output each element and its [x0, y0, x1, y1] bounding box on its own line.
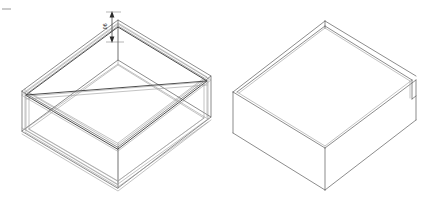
floor-outer-diamond: [22, 60, 211, 188]
solid-faces: [233, 21, 416, 190]
wireframe-view: .06: [22, 11, 211, 191]
drawing-svg: .06: [0, 0, 429, 205]
solid-view: [233, 21, 416, 190]
dimension-label: .06: [102, 23, 108, 30]
floor-inner-diamond: [29, 65, 204, 181]
technical-drawing-canvas: .06: [0, 0, 429, 205]
rim-thickness-dimension: .06: [102, 11, 124, 43]
outer-top-rim-lower: [22, 24, 211, 151]
